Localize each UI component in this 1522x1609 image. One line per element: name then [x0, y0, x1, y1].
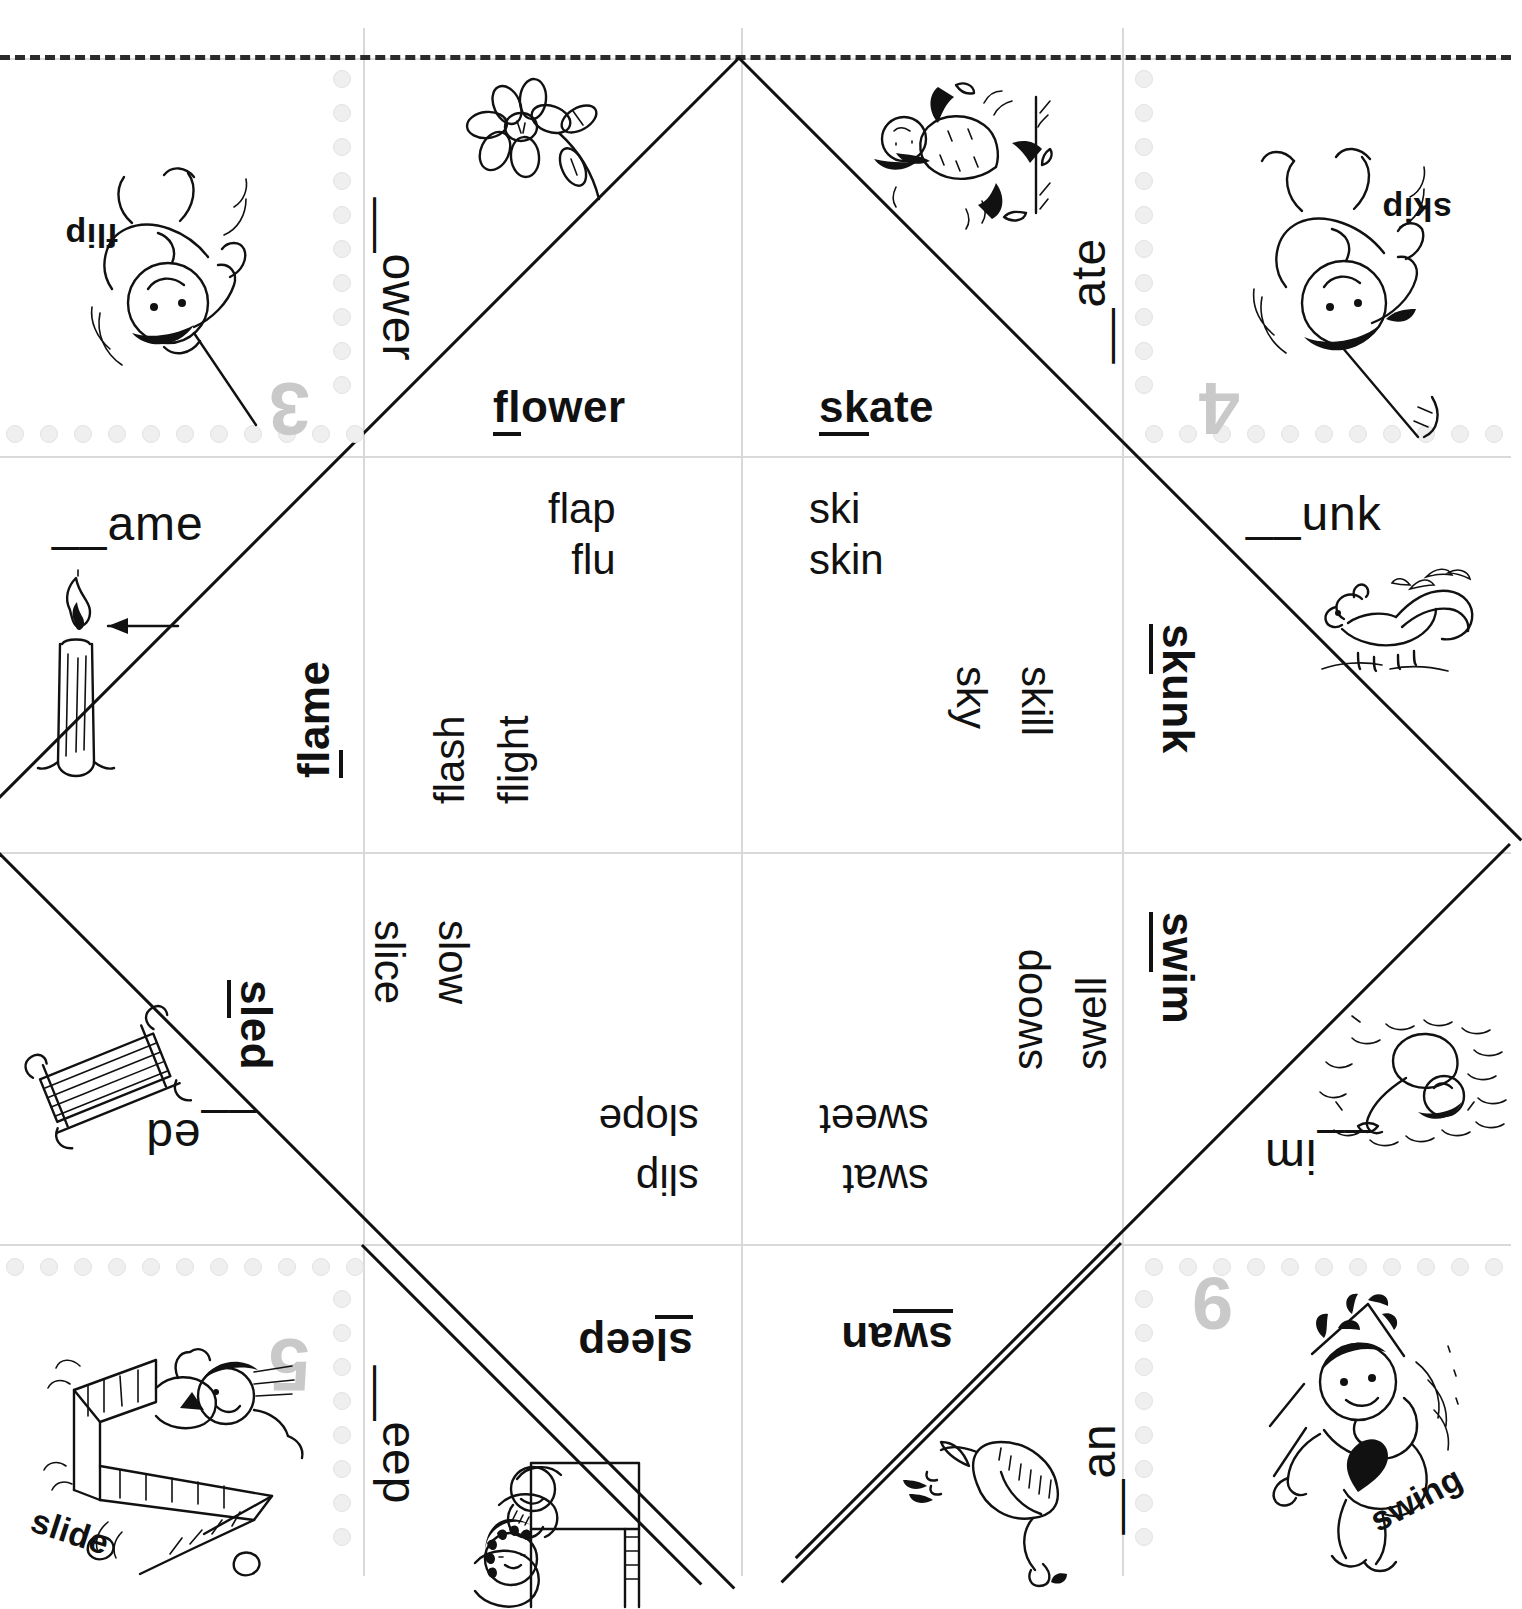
- girl-on-swing-icon: [1252, 1294, 1472, 1584]
- answer-skunk: skunk: [1154, 624, 1202, 754]
- skunk-icon: [1314, 561, 1484, 681]
- panel-skunk: __unk skunk: [1122, 456, 1511, 852]
- children-bunk-bed-sleeping-icon: [459, 1459, 679, 1609]
- prompt-unk: __unk: [1246, 488, 1382, 540]
- word-rotated-skill: skill: [1014, 666, 1059, 736]
- answer-sleep: sleep: [578, 1320, 693, 1368]
- answer-flame: flame: [290, 661, 338, 778]
- panel-sl-words: slice slow slope slip: [363, 852, 741, 1244]
- panel-skate: __ate: [741, 58, 1122, 456]
- swan-icon: [899, 1442, 1089, 1592]
- flower-icon: [463, 83, 623, 213]
- panel-sk-words: ski skin sky skill: [741, 456, 1122, 852]
- word-list-upright: flap flu: [548, 486, 616, 589]
- word-rotated-flash: flash: [427, 715, 472, 804]
- answer-skate: skate: [819, 383, 934, 431]
- panel-number: 6: [1192, 1264, 1233, 1344]
- word-list-upright: ski skin: [809, 486, 884, 589]
- answer-flower: flower: [493, 383, 626, 431]
- panel-skip: skip 4: [1122, 58, 1511, 456]
- panel-swim: swim __im: [1122, 852, 1511, 1244]
- word-rotated-slice: slice: [367, 920, 412, 1004]
- child-skating-icon: [856, 83, 1056, 228]
- prompt-ate: __ate: [1063, 238, 1115, 363]
- word-flipped-slip: slip: [636, 1157, 699, 1202]
- panel-sw-words: swell swoop sweet swat: [741, 852, 1122, 1244]
- word-rotated-slow: slow: [431, 920, 476, 1004]
- panel-sleep: __eep sleep: [363, 1244, 741, 1576]
- panel-slide: 5 slide: [0, 1244, 363, 1576]
- panel-swan: swan __an: [741, 1244, 1122, 1576]
- candle-flame-with-arrow-icon: [30, 566, 190, 786]
- panel-flip: flip 3: [0, 58, 363, 456]
- prompt-ed: __ed: [145, 1110, 256, 1162]
- word-rotated-swoop: swoop: [1005, 949, 1050, 1070]
- answer-swan: swan: [841, 1314, 953, 1362]
- prompt-ame: __ame: [52, 498, 204, 550]
- word-flipped-swat: swat: [843, 1157, 929, 1202]
- prompt-eep: __eep: [373, 1366, 425, 1504]
- panel-fl-words: flap flu flash flight: [363, 456, 741, 852]
- child-swinging-on-rope-icon: [70, 153, 290, 453]
- word-rotated-sky: sky: [949, 666, 994, 729]
- prompt-an: __an: [1073, 1423, 1125, 1534]
- word-rotated-flight: flight: [491, 715, 536, 804]
- prompt-ower: __ower: [373, 198, 425, 361]
- panel-flame: __ame flame: [0, 456, 363, 852]
- answer-swim: swim: [1154, 912, 1202, 1024]
- word-rotated-swell: swell: [1069, 977, 1114, 1070]
- child-swimming-icon: [1320, 1010, 1510, 1150]
- child-on-slide-icon: [40, 1344, 330, 1574]
- panel-flower: __ower flower: [363, 58, 741, 456]
- word-flipped-sweet: sweet: [819, 1097, 929, 1142]
- panel-sled: __ed sled: [0, 852, 363, 1244]
- answer-sled: sled: [232, 980, 280, 1070]
- word-flipped-slope: slope: [599, 1097, 699, 1142]
- prompt-im: __im: [1264, 1130, 1372, 1182]
- panel-swing: 6 swing: [1122, 1244, 1511, 1576]
- girl-skipping-rope-icon: [1232, 143, 1462, 443]
